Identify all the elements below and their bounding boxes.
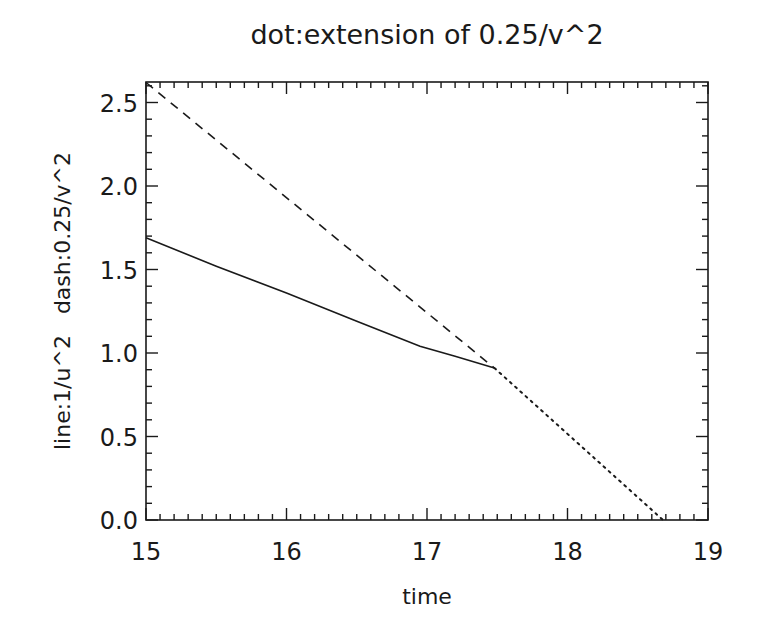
chart-title: dot:extension of 0.25/v^2: [250, 19, 603, 50]
x-tick-label: 17: [412, 538, 443, 566]
x-axis-label: time: [402, 584, 452, 609]
y-tick-label: 0.0: [100, 507, 138, 535]
x-tick-label: 15: [131, 538, 162, 566]
chart: dot:extension of 0.25/v^2 1516171819 0.0…: [0, 0, 759, 639]
y-tick-label: 1.5: [100, 257, 138, 285]
y-axis-label: line:1/u^2 dash:0.25/v^2: [50, 152, 75, 450]
x-tick-label: 18: [552, 538, 583, 566]
series-solid-line: [146, 238, 494, 368]
axis-ticks: [146, 82, 708, 520]
y-tick-label: 0.5: [100, 424, 138, 452]
x-tick-labels: 1516171819: [131, 538, 724, 566]
y-tick-labels: 0.00.51.01.52.02.5: [100, 90, 138, 536]
x-tick-label: 16: [271, 538, 302, 566]
data-series: [146, 83, 663, 521]
plot-frame: [146, 82, 708, 520]
series-dotted-line: [494, 368, 663, 520]
series-dashed-line: [146, 83, 494, 369]
y-tick-label: 2.0: [100, 173, 138, 201]
y-tick-label: 2.5: [100, 90, 138, 118]
x-tick-label: 19: [693, 538, 724, 566]
y-tick-label: 1.0: [100, 340, 138, 368]
